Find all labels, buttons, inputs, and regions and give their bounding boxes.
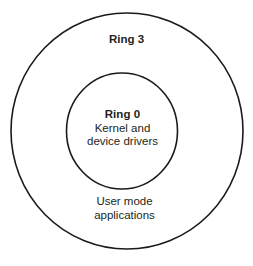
outer-ring-title: Ring 3 <box>0 33 253 47</box>
inner-ring-description-line-2: device drivers <box>0 135 245 149</box>
inner-ring-label: Ring 0 Kernel and device drivers <box>0 108 245 149</box>
protection-ring-diagram: Ring 3 Ring 0 Kernel and device drivers … <box>0 0 253 266</box>
outer-ring-description-line-1: User mode <box>0 195 249 209</box>
outer-ring-description-line-2: applications <box>0 209 249 223</box>
inner-ring-description-line-1: Kernel and <box>0 122 245 136</box>
outer-ring-label: Ring 3 <box>0 33 253 47</box>
outer-ring-description: User mode applications <box>0 195 249 222</box>
inner-ring-title: Ring 0 <box>0 108 245 122</box>
